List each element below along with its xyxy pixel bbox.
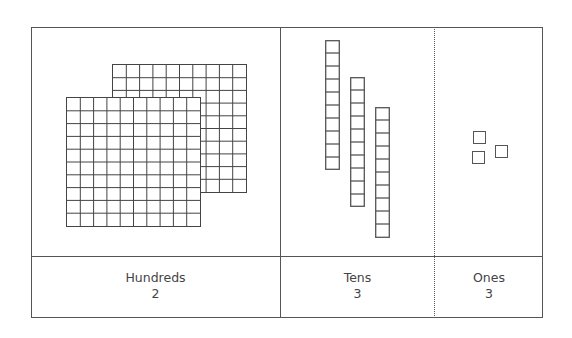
rod-cells	[375, 107, 390, 238]
hundred-flat-front	[66, 97, 201, 227]
ten-rod-1	[325, 40, 340, 174]
rod-cells	[350, 77, 365, 207]
column-value: 3	[435, 286, 543, 302]
column-label-ones: Ones 3	[435, 270, 543, 302]
column-name: Tens	[281, 270, 434, 286]
column-label-hundreds: Hundreds 2	[31, 270, 280, 302]
ten-rod-2	[350, 77, 365, 211]
unit-cube-1	[473, 131, 486, 144]
row-divider	[31, 256, 543, 257]
column-value: 3	[281, 286, 434, 302]
unit-cube-2	[472, 151, 485, 164]
grid-lines	[67, 98, 200, 226]
column-name: Ones	[435, 270, 543, 286]
unit-cube-3	[495, 145, 508, 158]
column-name: Hundreds	[31, 270, 280, 286]
column-value: 2	[31, 286, 280, 302]
column-label-tens: Tens 3	[281, 270, 434, 302]
ten-rod-3	[375, 107, 390, 242]
rod-cells	[325, 40, 340, 170]
